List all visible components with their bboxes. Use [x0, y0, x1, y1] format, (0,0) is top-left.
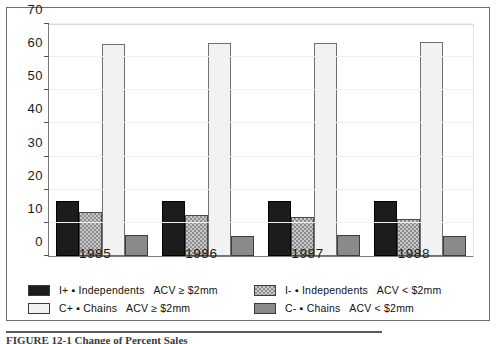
figure-container: 010203040506070 1985198619871988 I+ ▪ In… — [0, 0, 498, 344]
legend-item-cm[interactable]: C- ▪ Chains ACV < $2mm — [254, 302, 480, 314]
chart-legend: I+ ▪ Independents ACV ≥ $2mmI- ▪ Indepen… — [28, 281, 480, 317]
plot-area: 010203040506070 — [48, 24, 473, 257]
y-gridline — [49, 189, 473, 190]
caption-rule — [6, 331, 382, 333]
x-axis-label-1985: 1985 — [42, 246, 148, 261]
y-gridline — [49, 222, 473, 223]
y-axis-tick-label: 70 — [28, 2, 43, 17]
x-axis-label-1988: 1988 — [361, 246, 467, 261]
legend-label-cm: C- ▪ Chains ACV < $2mm — [285, 302, 414, 314]
y-axis-tick-label: 20 — [28, 167, 43, 182]
y-gridline — [49, 23, 473, 24]
plot-right-border — [473, 24, 474, 257]
legend-swatch-cp — [28, 303, 50, 314]
legend-swatch-im — [254, 285, 276, 296]
legend-item-im[interactable]: I- ▪ Independents ACV < $2mm — [254, 284, 480, 296]
y-axis-tick-label: 10 — [28, 200, 43, 215]
x-axis-label-1987: 1987 — [255, 246, 361, 261]
legend-item-ip[interactable]: I+ ▪ Independents ACV ≥ $2mm — [28, 284, 254, 296]
legend-swatch-ip — [28, 285, 50, 296]
plot-area-wrapper: 010203040506070 — [6, 14, 490, 264]
y-gridline — [49, 89, 473, 90]
bar-cp-1985[interactable] — [102, 44, 125, 256]
legend-label-im: I- ▪ Independents ACV < $2mm — [285, 284, 442, 296]
legend-label-ip: I+ ▪ Independents ACV ≥ $2mm — [59, 284, 218, 296]
y-axis-tick-label: 30 — [28, 134, 43, 149]
figure-caption: FIGURE 12-1 Change of Percent Sales — [6, 334, 476, 344]
y-axis-tick-label: 50 — [28, 68, 43, 83]
y-gridline — [49, 56, 473, 57]
legend-label-cp: C+ ▪ Chains ACV ≥ $2mm — [59, 302, 190, 314]
bar-cp-1987[interactable] — [314, 43, 337, 256]
legend-swatch-cm — [254, 303, 276, 314]
x-axis-labels: 1985198619871988 — [42, 246, 467, 261]
y-gridline — [49, 122, 473, 123]
y-gridline — [49, 156, 473, 157]
x-axis-label-1986: 1986 — [148, 246, 254, 261]
y-axis-tick-label: 60 — [28, 35, 43, 50]
y-axis-tick-label: 40 — [28, 101, 43, 116]
bar-cp-1988[interactable] — [420, 42, 443, 256]
legend-item-cp[interactable]: C+ ▪ Chains ACV ≥ $2mm — [28, 302, 254, 314]
bar-cp-1986[interactable] — [208, 43, 231, 256]
